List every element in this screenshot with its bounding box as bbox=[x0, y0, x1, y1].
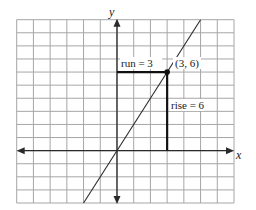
coordinate-plane: y x run = 3 (3, 6) rise = 6 bbox=[0, 0, 256, 210]
data-point bbox=[164, 69, 170, 75]
point-label: (3, 6) bbox=[175, 57, 199, 70]
x-axis-label: x bbox=[235, 148, 242, 162]
x-axis-arrow-left-icon bbox=[17, 147, 25, 154]
y-axis-label: y bbox=[108, 5, 115, 19]
rise-label: rise = 6 bbox=[171, 99, 205, 111]
run-label: run = 3 bbox=[121, 57, 153, 69]
grid bbox=[17, 20, 234, 203]
x-axis-arrow-right-icon bbox=[226, 147, 234, 154]
